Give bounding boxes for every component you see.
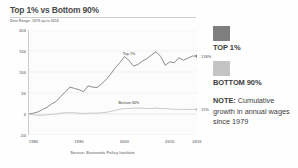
page-title: Top 1% vs Bottom 90% — [10, 5, 99, 15]
y-tick-label: -50 — [20, 133, 26, 138]
note-label: NOTE: — [213, 96, 236, 105]
legend-item-bottom-90: BOTTOM 90% — [213, 61, 292, 87]
chart-subtitle: Date Range: 1979 up to 2016 — [10, 19, 59, 23]
y-tick-label: 100 — [19, 70, 26, 75]
top-1-swatch — [213, 26, 230, 41]
legend-item-top-1: TOP 1% — [213, 26, 292, 52]
bottom-90-swatch — [213, 61, 230, 76]
end-markers — [195, 54, 197, 111]
chart-panel: Top 1% vs Bottom 90% Date Range: 1979 up… — [0, 0, 205, 168]
y-tick-label: 200 — [19, 28, 26, 33]
plot-area: 200150100500-50 19801990200020102016 Top… — [28, 30, 197, 135]
series-lines — [29, 52, 197, 115]
x-tick-label: 2000 — [120, 139, 129, 144]
series-label-bottom-90: Bottom 90% — [118, 101, 140, 105]
chart-card: Top 1% vs Bottom 90% Date Range: 1979 up… — [0, 0, 298, 168]
legend-panel: TOP 1% BOTTOM 90% NOTE: Cumulative growt… — [205, 0, 298, 168]
x-tick-label: 2016 — [192, 139, 201, 144]
series-label-top-1: Top 1% — [122, 52, 136, 56]
chart-svg — [29, 30, 197, 135]
note-block: NOTE: Cumulative growth in annual wages … — [213, 96, 292, 128]
title-divider — [10, 17, 196, 18]
y-tick-label: 0 — [24, 112, 26, 117]
gridlines — [29, 30, 197, 135]
y-tick-label: 50 — [21, 91, 26, 96]
source-attribution: Source: Economic Policy Institute — [0, 150, 205, 155]
x-tick-label: 1990 — [74, 139, 83, 144]
legend-label-bottom-90: BOTTOM 90% — [213, 78, 292, 87]
y-tick-label: 150 — [19, 49, 26, 54]
x-tick-label: 2010 — [165, 139, 174, 144]
x-tick-label: 1980 — [29, 139, 38, 144]
legend-label-top-1: TOP 1% — [213, 43, 292, 52]
